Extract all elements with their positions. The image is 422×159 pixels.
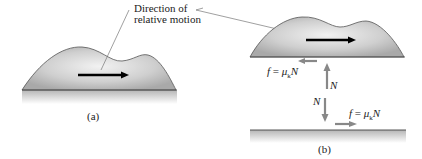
friction-label-ground: f = μkN [349,108,380,124]
callout-line-2: relative motion [134,14,201,25]
caption-a: (a) [87,111,99,122]
block-b [250,17,404,57]
diagram-canvas [0,0,422,159]
normal-label-down: N [313,96,320,107]
panel-a [22,47,177,104]
arrowhead-icon [322,114,329,122]
friction-label-block: f = μkN [267,66,298,82]
ground-shading-a [22,90,177,104]
arrowhead-icon [324,63,331,71]
ground-shading-b [250,130,406,143]
caption-b: (b) [318,144,331,155]
normal-label-up: N [330,80,337,91]
block-a [22,47,176,90]
arrowhead-icon [298,58,305,64]
